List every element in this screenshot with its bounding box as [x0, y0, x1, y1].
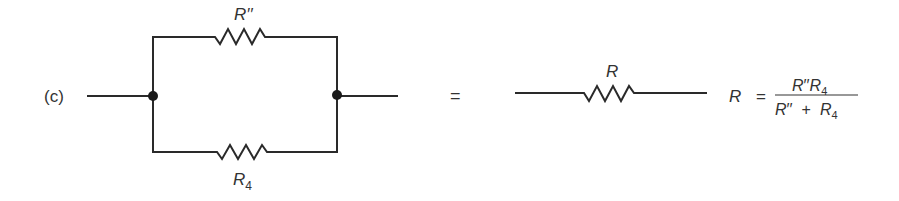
- equivalent-resistor: [515, 86, 707, 101]
- equals-sign: =: [450, 86, 461, 106]
- formula-numerator: R′′R4: [792, 77, 827, 97]
- top-resistor-symbol: R: [234, 5, 246, 24]
- denominator-b-symbol: R: [820, 101, 832, 118]
- denominator-a-primes: ′′: [787, 101, 793, 118]
- formula: R = R′′R4 R′′+R4: [729, 77, 858, 121]
- formula-equals: =: [756, 87, 766, 106]
- bottom-resistor-symbol: R: [233, 170, 245, 189]
- numerator-a-symbol: R: [792, 77, 804, 94]
- left-junction-node: [148, 91, 158, 101]
- denominator-a-symbol: R: [775, 101, 787, 118]
- formula-denominator: R′′+R4: [775, 101, 838, 121]
- right-junction-node: [332, 90, 342, 100]
- top-branch-resistor: [153, 29, 337, 96]
- bottom-resistor-label: R4: [233, 170, 252, 193]
- denominator-b-subscript: 4: [831, 109, 837, 121]
- formula-lhs: R: [729, 87, 741, 106]
- bottom-resistor-subscript: 4: [245, 179, 252, 193]
- top-resistor-label: R′′: [234, 5, 253, 24]
- denominator-plus: +: [802, 101, 811, 118]
- circuit-diagram: (c) R′′ R4 = R R = R′′R4 R′′+R4: [0, 0, 899, 201]
- equivalent-resistor-label: R: [606, 62, 618, 81]
- part-label: (c): [44, 87, 64, 106]
- top-resistor-primes: ′′: [246, 5, 253, 24]
- parallel-circuit: [87, 29, 398, 159]
- numerator-b-symbol: R: [810, 77, 822, 94]
- bottom-branch-resistor: [153, 96, 337, 159]
